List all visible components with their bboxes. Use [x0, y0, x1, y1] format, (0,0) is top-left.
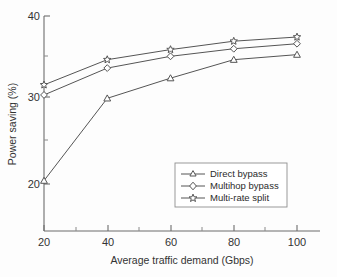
star-marker	[293, 33, 300, 40]
series-group	[40, 33, 300, 183]
x-tick-label-20: 20	[38, 236, 50, 248]
diamond-marker	[294, 40, 301, 47]
y-axis-title: Power saving (%)	[6, 83, 18, 165]
legend-label-direct-bypass: Direct bypass	[210, 168, 268, 179]
x-tick-label-100: 100	[288, 236, 306, 248]
series-path-0	[44, 55, 297, 181]
star-marker	[40, 81, 47, 88]
chart-legend: Direct bypass Multihop bypass Multi-rate…	[175, 163, 287, 207]
x-tick-label-60: 60	[165, 236, 177, 248]
y-tick-label-20: 20	[28, 178, 40, 190]
power-saving-line-chart: 40 30 20 20 40 60 80 100 Average traffic…	[0, 0, 337, 277]
diamond-marker	[104, 65, 111, 72]
legend-label-multi-rate-split: Multi-rate split	[210, 192, 269, 203]
chart-figure: 40 30 20 20 40 60 80 100 Average traffic…	[0, 0, 337, 277]
x-axis-title: Average traffic demand (Gbps)	[110, 254, 253, 266]
legend-label-multihop-bypass: Multihop bypass	[210, 180, 279, 191]
star-marker	[104, 56, 111, 63]
y-tick-label-30: 30	[28, 91, 40, 103]
y-tick-label-40: 40	[28, 10, 40, 22]
star-marker	[167, 46, 174, 53]
x-tick-label-40: 40	[102, 236, 114, 248]
triangle-marker	[294, 51, 301, 57]
diamond-marker	[167, 53, 174, 60]
star-marker	[230, 37, 237, 44]
x-tick-label-80: 80	[228, 236, 240, 248]
diamond-marker	[230, 45, 237, 52]
